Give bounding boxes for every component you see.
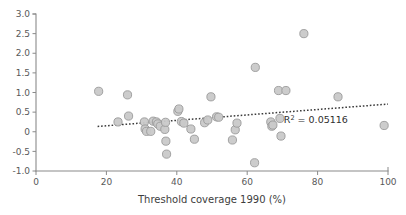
data-point (161, 118, 169, 126)
data-point (162, 137, 170, 145)
data-point (114, 118, 122, 126)
data-point (175, 105, 183, 113)
data-point (215, 113, 223, 121)
data-point (380, 121, 388, 129)
data-point (277, 132, 285, 140)
data-point (95, 87, 103, 95)
data-point (190, 135, 198, 143)
y-tick-label: 0.5 (16, 107, 30, 117)
x-tick-label: 0 (33, 177, 39, 187)
data-point (124, 112, 132, 120)
y-tick-label: 1.0 (16, 88, 31, 98)
x-axis-title: Threshold coverage 1990 (%) (137, 194, 286, 205)
data-point (282, 86, 290, 94)
r-squared-value: = 0.05116 (295, 114, 348, 125)
y-tick-label: 3.0 (16, 9, 31, 19)
data-point (233, 119, 241, 127)
data-point (228, 136, 236, 144)
x-tick-label: 20 (101, 177, 113, 187)
y-tick-label: 2.5 (16, 29, 30, 39)
data-point (250, 159, 258, 167)
data-point (162, 150, 170, 158)
x-tick-label: 100 (379, 177, 396, 187)
data-point (334, 93, 342, 101)
scatter-plot-figure: -1.0-0.500.51.01.52.02.53.0020406080100 … (0, 0, 406, 215)
data-point (251, 63, 259, 71)
data-point (180, 119, 188, 127)
x-tick-label: 60 (241, 177, 253, 187)
y-tick-label: 0 (24, 127, 30, 137)
data-point (123, 91, 131, 99)
data-point (204, 116, 212, 124)
y-tick-label: 2.0 (16, 48, 31, 58)
data-point (300, 30, 308, 38)
plot-background (0, 0, 406, 215)
data-point (276, 114, 284, 122)
y-tick-label: 1.5 (16, 68, 30, 78)
data-point (147, 127, 155, 135)
plot-canvas: -1.0-0.500.51.01.52.02.53.0020406080100 … (0, 0, 406, 215)
data-point (269, 121, 277, 129)
data-point (207, 93, 215, 101)
y-tick-label: -1.0 (12, 166, 30, 176)
data-point (187, 125, 195, 133)
y-tick-label: -0.5 (12, 147, 30, 157)
x-tick-label: 40 (171, 177, 183, 187)
x-tick-label: 80 (312, 177, 324, 187)
axis-labels: Threshold coverage 1990 (%) (137, 194, 286, 205)
